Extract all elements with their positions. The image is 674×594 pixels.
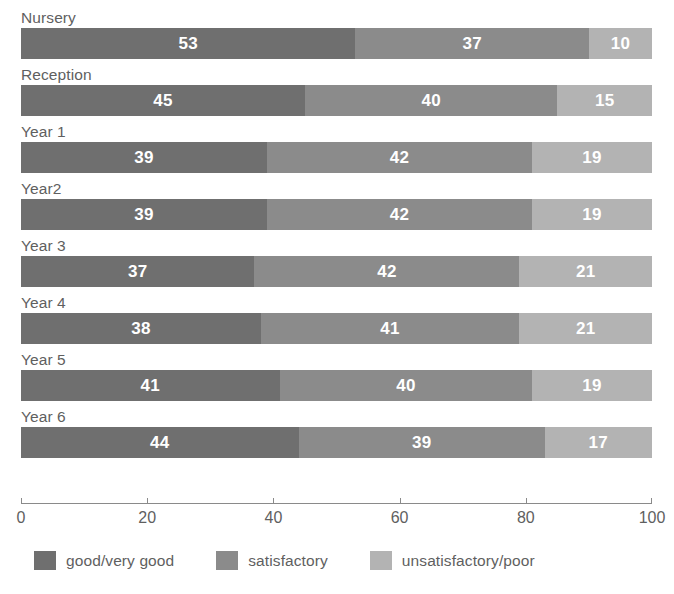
bar-group: Reception454015 (21, 65, 652, 122)
bar-segment: 39 (21, 142, 267, 173)
bar-category-label: Year 5 (21, 350, 66, 370)
bar-segment-value: 42 (390, 205, 410, 225)
bar-segment-value: 41 (141, 376, 161, 396)
bar-segment-value: 37 (128, 262, 148, 282)
x-axis-tick-label: 40 (264, 509, 282, 527)
x-axis-tick-label: 0 (17, 509, 26, 527)
bar-group: Year 4384121 (21, 293, 652, 350)
bar-segment-value: 42 (390, 148, 410, 168)
x-axis-tick-mark (400, 498, 401, 504)
bar-segment-value: 38 (131, 319, 151, 339)
chart-legend: good/very goodsatisfactoryunsatisfactory… (34, 551, 535, 570)
bar-group: Year2394219 (21, 179, 652, 236)
legend-color-swatch (34, 551, 56, 570)
x-axis-tick-mark (21, 498, 22, 504)
bar-segment-value: 39 (134, 205, 154, 225)
bar-segment: 21 (519, 313, 652, 344)
x-axis: 020406080100 (21, 503, 652, 543)
bar-segment-value: 40 (396, 376, 416, 396)
bar-category-label: Year 1 (21, 122, 66, 142)
legend-item[interactable]: good/very good (34, 551, 174, 570)
bar-segment-value: 42 (377, 262, 397, 282)
bar-segment-value: 21 (576, 319, 596, 339)
bar-group: Year 5414019 (21, 350, 652, 407)
bar-segment: 37 (355, 28, 588, 59)
stacked-bar-chart: Nursery533710Reception454015Year 1394219… (0, 0, 674, 594)
bar-segment-value: 17 (589, 433, 609, 453)
bar-category-label: Year 6 (21, 407, 66, 427)
bar-segment: 19 (532, 370, 652, 401)
bar-segment-value: 39 (412, 433, 432, 453)
stacked-bar: 443917 (21, 427, 652, 458)
bar-category-label: Nursery (21, 8, 76, 28)
bar-segment-value: 39 (134, 148, 154, 168)
x-axis-tick-mark (147, 498, 148, 504)
bar-category-label: Reception (21, 65, 92, 85)
bar-segment: 41 (261, 313, 520, 344)
bar-segment: 21 (519, 256, 652, 287)
bar-segment: 40 (280, 370, 532, 401)
bar-segment-value: 45 (153, 91, 173, 111)
bar-segment: 42 (267, 142, 532, 173)
stacked-bar: 454015 (21, 85, 652, 116)
bar-segment: 41 (21, 370, 280, 401)
bar-segment-value: 19 (582, 205, 602, 225)
x-axis-tick-label: 80 (517, 509, 535, 527)
legend-color-swatch (216, 551, 238, 570)
legend-label: unsatisfactory/poor (402, 552, 535, 570)
x-axis-tick-label: 100 (639, 509, 666, 527)
bar-segment-value: 21 (576, 262, 596, 282)
bar-segment: 39 (21, 199, 267, 230)
bar-segment-value: 40 (421, 91, 441, 111)
bar-segment: 19 (532, 199, 652, 230)
bar-category-label: Year2 (21, 179, 61, 199)
stacked-bar: 394219 (21, 199, 652, 230)
bar-category-label: Year 3 (21, 236, 66, 256)
x-axis-tick-label: 20 (138, 509, 156, 527)
legend-item[interactable]: unsatisfactory/poor (370, 551, 535, 570)
stacked-bar: 414019 (21, 370, 652, 401)
bar-group: Nursery533710 (21, 8, 652, 65)
bar-segment-value: 10 (611, 34, 631, 54)
bar-category-label: Year 4 (21, 293, 66, 313)
bar-group: Year 6443917 (21, 407, 652, 464)
stacked-bar: 384121 (21, 313, 652, 344)
legend-label: good/very good (66, 552, 174, 570)
stacked-bar: 394219 (21, 142, 652, 173)
bar-segment-value: 37 (462, 34, 482, 54)
bar-segment-value: 19 (582, 376, 602, 396)
bar-segment: 15 (557, 85, 652, 116)
x-axis-tick-mark (651, 498, 652, 504)
bar-segment: 19 (532, 142, 652, 173)
bar-group: Year 1394219 (21, 122, 652, 179)
plot-area: Nursery533710Reception454015Year 1394219… (21, 8, 652, 464)
stacked-bar: 374221 (21, 256, 652, 287)
bar-segment-value: 15 (595, 91, 615, 111)
bar-segment: 39 (299, 427, 545, 458)
x-axis-tick-mark (273, 498, 274, 504)
legend-color-swatch (370, 551, 392, 570)
bar-segment-value: 41 (380, 319, 400, 339)
bar-segment: 42 (254, 256, 519, 287)
bar-segment-value: 44 (150, 433, 170, 453)
legend-label: satisfactory (248, 552, 328, 570)
x-axis-tick-mark (526, 498, 527, 504)
bar-segment: 17 (545, 427, 652, 458)
legend-item[interactable]: satisfactory (216, 551, 328, 570)
stacked-bar: 533710 (21, 28, 652, 59)
bar-segment-value: 19 (582, 148, 602, 168)
bar-segment: 37 (21, 256, 254, 287)
bar-group: Year 3374221 (21, 236, 652, 293)
x-axis-tick-label: 60 (391, 509, 409, 527)
bar-segment: 40 (305, 85, 557, 116)
bar-segment: 10 (589, 28, 652, 59)
x-axis-line (21, 503, 652, 504)
bar-segment: 42 (267, 199, 532, 230)
bar-segment-value: 53 (178, 34, 198, 54)
bar-segment: 38 (21, 313, 261, 344)
bar-segment: 45 (21, 85, 305, 116)
bar-segment: 44 (21, 427, 299, 458)
bar-segment: 53 (21, 28, 355, 59)
